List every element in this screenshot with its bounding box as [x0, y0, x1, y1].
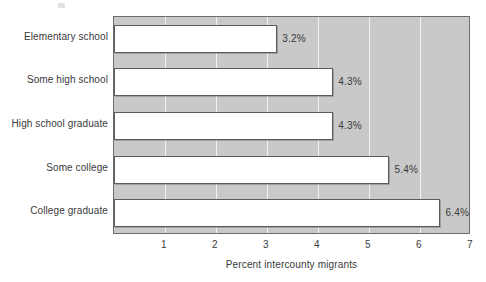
bar-value-label: 5.4% — [394, 163, 418, 174]
bar[interactable] — [114, 156, 389, 184]
x-tick-label-4: 4 — [314, 239, 320, 250]
category-label: Elementary school — [0, 31, 108, 42]
category-label: College graduate — [0, 205, 108, 216]
bar-band — [114, 104, 469, 148]
bar-value-label: 3.2% — [282, 32, 306, 43]
plot-area — [113, 16, 470, 234]
bar-band — [114, 191, 469, 235]
x-tick-label-2: 2 — [212, 239, 218, 250]
scan-artifact — [58, 3, 65, 8]
bar-value-label: 6.4% — [445, 207, 469, 218]
bar[interactable] — [114, 199, 440, 227]
bar-band — [114, 61, 469, 105]
x-tick-label-6: 6 — [416, 239, 422, 250]
bar-value-label: 4.3% — [338, 120, 362, 131]
bar[interactable] — [114, 68, 333, 96]
x-tick-label-7: 7 — [467, 239, 473, 250]
x-tick-label-5: 5 — [365, 239, 371, 250]
bar-value-label: 4.3% — [338, 76, 362, 87]
category-label: Some college — [0, 162, 108, 173]
x-axis-title: Percent intercounty migrants — [113, 259, 470, 270]
bar[interactable] — [114, 25, 277, 53]
category-label: Some high school — [0, 74, 108, 85]
bar-chart: Elementary schoolSome high schoolHigh sc… — [0, 0, 486, 282]
x-tick-label-1: 1 — [161, 239, 167, 250]
x-tick-label-3: 3 — [263, 239, 269, 250]
bar[interactable] — [114, 112, 333, 140]
category-label: High school graduate — [0, 118, 108, 129]
